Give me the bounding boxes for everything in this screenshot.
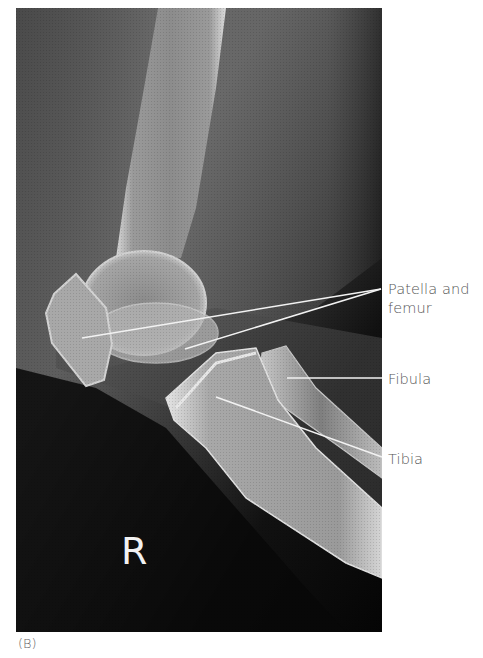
side-marker-r: R — [121, 531, 147, 571]
panel-caption: (B) — [18, 636, 37, 651]
label-fibula: Fibula — [388, 370, 431, 389]
xray-image — [16, 8, 382, 632]
label-tibia: Tibia — [388, 450, 423, 469]
label-patella-and-femur: Patella and femur — [388, 280, 483, 318]
knee-xray-figure: R Patella and femur Fibula Tibia (B) — [0, 0, 483, 658]
